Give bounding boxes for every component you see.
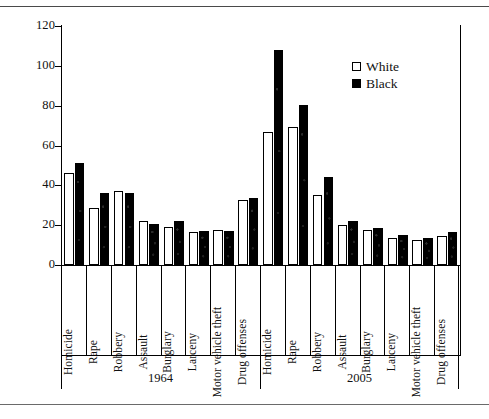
legend-swatch-white-icon (352, 62, 361, 71)
category-label-cell: Assault (335, 265, 360, 355)
bar-white (114, 191, 123, 265)
y-axis-tick-label: 40 (15, 178, 55, 191)
bar-white (363, 230, 372, 265)
category-label-cell: Robbery (111, 265, 136, 355)
y-axis-tick (55, 66, 62, 67)
category-row-endcap (460, 265, 461, 355)
y-axis-tick (55, 185, 62, 186)
category-label-cell: Drug offenses (434, 265, 459, 355)
bar-black (373, 228, 382, 265)
category-label-cell: Motor vehicle theft (210, 265, 235, 355)
category-label-cell: Burglary (161, 265, 186, 355)
bar-black (224, 231, 233, 265)
bar-white (412, 240, 421, 265)
y-axis-tick-label: 0 (15, 258, 55, 271)
y-axis-tick-label: 120 (15, 19, 55, 32)
legend-item-black: Black (352, 75, 399, 92)
bar-black (299, 105, 308, 265)
bar-black (423, 238, 432, 265)
bar-white (89, 208, 98, 265)
bar-white (139, 221, 148, 265)
category-label-cell: Larceny (384, 265, 409, 355)
category-label-cell: Larceny (185, 265, 210, 355)
bar-white (338, 225, 347, 265)
bar-black (100, 193, 109, 265)
category-label-cell: Homicide (260, 265, 285, 355)
category-label-cell: Rape (86, 265, 111, 355)
bar-white (388, 238, 397, 265)
bar-black (274, 50, 283, 265)
bar-black (249, 198, 258, 265)
plot-area: 020406080100120 (62, 26, 460, 265)
bar-black (324, 177, 333, 265)
category-label-cell: Rape (285, 265, 310, 355)
y-axis-tick (55, 146, 62, 147)
category-label-cell: Assault (136, 265, 161, 355)
bar-white (263, 132, 272, 265)
group-year-row: 19642005 (61, 355, 461, 389)
y-axis-tick-label: 20 (15, 218, 55, 231)
y-axis-tick-label: 100 (15, 59, 55, 72)
bar-black (448, 232, 457, 265)
group-year-label: 2005 (260, 371, 459, 386)
category-label-row: HomicideRapeRobberyAssaultBurglaryLarcen… (61, 265, 461, 355)
top-rule (0, 6, 489, 7)
y-axis-tick-label: 60 (15, 139, 55, 152)
legend: White Black (352, 58, 399, 92)
bar-white (288, 127, 297, 265)
bar-white (64, 173, 73, 265)
group-year-label: 1964 (61, 371, 260, 386)
category-label-cell: Drug offenses (235, 265, 260, 355)
category-label-cell: Homicide (61, 265, 86, 355)
category-label-cell: Robbery (310, 265, 335, 355)
bar-black (174, 221, 183, 265)
bar-black (75, 163, 84, 265)
bar-black (125, 193, 134, 265)
bar-black (398, 235, 407, 265)
bar-white (189, 232, 198, 265)
legend-swatch-black-icon (352, 79, 361, 88)
bar-black (199, 231, 208, 265)
plot-right-border (460, 25, 461, 266)
legend-item-white: White (352, 58, 399, 75)
bar-white (213, 230, 222, 265)
y-axis-tick (55, 26, 62, 27)
bar-white (313, 195, 322, 265)
bar-white (238, 200, 247, 265)
legend-label-black: Black (366, 75, 398, 92)
y-axis-tick (55, 106, 62, 107)
figure: Median time served (months) 020406080100… (0, 0, 489, 419)
bar-white (437, 236, 446, 265)
bar-white (164, 227, 173, 265)
bar-black (348, 221, 357, 265)
bar-black (149, 224, 158, 265)
y-axis-tick-label: 80 (15, 99, 55, 112)
y-axis-tick (55, 225, 62, 226)
legend-label-white: White (366, 58, 399, 75)
category-label-cell: Motor vehicle theft (409, 265, 434, 355)
bottom-rule (0, 404, 489, 405)
category-label-cell: Burglary (360, 265, 385, 355)
